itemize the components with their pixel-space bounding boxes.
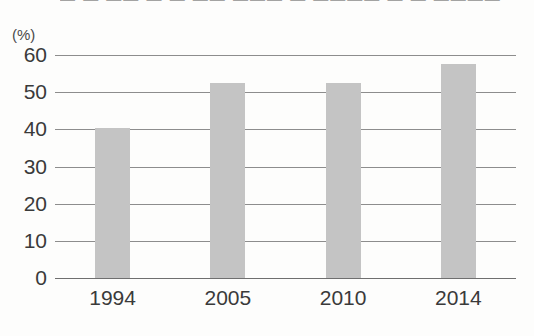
plot-area [55,55,516,278]
y-axis-tick-label: 10 [7,229,47,253]
x-axis-tick-labels: 1994200520102014 [55,286,516,320]
x-axis-tick-label: 2005 [183,286,273,310]
gridline [55,55,516,56]
bar [210,83,245,278]
x-axis-tick-label: 2014 [413,286,503,310]
bar [441,64,476,278]
bar [95,128,130,278]
x-axis-tick-label: 1994 [68,286,158,310]
y-axis-tick-labels: 0102030405060 [0,55,47,278]
y-axis-tick-label: 20 [7,192,47,216]
y-axis-tick-label: 0 [7,266,47,290]
y-axis-unit-label: (%) [12,26,35,43]
bar [326,83,361,278]
x-axis-tick-label: 2010 [298,286,388,310]
y-axis-tick-label: 50 [7,80,47,104]
chart-figure: — — —— — — —— ——— — ———— — — ———— (%) 01… [0,0,534,336]
y-axis-tick-label: 30 [7,155,47,179]
axis-baseline [55,278,516,279]
y-axis-tick-label: 60 [7,43,47,67]
y-axis-tick-label: 40 [7,117,47,141]
clipped-title-sliver: — — —— — — —— ——— — ———— — — ———— [0,0,534,9]
